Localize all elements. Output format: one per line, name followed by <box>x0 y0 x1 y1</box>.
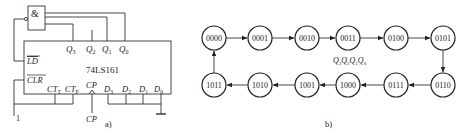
svg-text:0010: 0010 <box>299 34 315 43</box>
wire-clr-to-high <box>14 80 24 116</box>
label-q1: Q1 <box>102 44 112 55</box>
clock-edge-symbol <box>89 90 95 94</box>
label-ld: LD <box>26 56 39 66</box>
label-q2: Q2 <box>86 44 96 55</box>
caption-b: b) <box>325 119 332 129</box>
state-bit-order-label: Q3Q2Q1Q0 <box>333 56 367 66</box>
inverter-bubble <box>24 17 27 20</box>
svg-text:1010: 1010 <box>252 81 268 90</box>
label-ctt: CTT <box>47 84 61 95</box>
label-d2: D2 <box>121 84 131 95</box>
circuit-figure-a: & Q3 Q2 Q1 Q0 LD 74LS161 CLR CTT CTP CP … <box>14 6 171 129</box>
and-gate-symbol: & <box>31 8 39 19</box>
svg-text:0100: 0100 <box>388 34 404 43</box>
svg-text:0101: 0101 <box>435 34 451 43</box>
label-clr: CLR <box>27 75 43 85</box>
label-ctp: CTP <box>65 84 78 95</box>
svg-text:0110: 0110 <box>435 81 451 90</box>
svg-text:1001: 1001 <box>299 81 315 90</box>
wire-q3-to-gate <box>45 24 73 41</box>
chip-name: 74LS161 <box>86 65 119 75</box>
state-node: 0101 <box>431 26 455 50</box>
state-node: 0110 <box>431 73 455 97</box>
label-cp-input: CP <box>86 114 97 124</box>
label-d3: D3 <box>103 84 113 95</box>
state-diagram-b: 0000 0001 0010 0011 0100 0101 1011 1010 … <box>202 26 455 129</box>
state-node: 0111 <box>384 73 408 97</box>
label-cp-pin: CP <box>86 80 97 90</box>
state-node: 1010 <box>248 73 272 97</box>
caption-a: a) <box>105 119 112 129</box>
label-d0: D0 <box>153 84 163 95</box>
state-node: 1011 <box>202 73 226 97</box>
state-node: 0010 <box>295 26 319 50</box>
wire-d-to-ground <box>108 94 161 104</box>
svg-text:0001: 0001 <box>252 34 268 43</box>
label-d1: D1 <box>138 84 148 95</box>
diagram-canvas: & Q3 Q2 Q1 Q0 LD 74LS161 CLR CTT CTP CP … <box>0 0 470 140</box>
svg-text:0000: 0000 <box>206 34 222 43</box>
svg-text:1000: 1000 <box>340 81 356 90</box>
state-node: 0000 <box>202 26 226 50</box>
label-q3: Q3 <box>66 44 76 55</box>
wire-gate-to-ld <box>14 19 24 61</box>
svg-text:0111: 0111 <box>388 81 403 90</box>
svg-text:0011: 0011 <box>340 34 356 43</box>
state-node: 1000 <box>336 73 360 97</box>
state-node: 1001 <box>295 73 319 97</box>
state-node: 0001 <box>248 26 272 50</box>
state-node: 0011 <box>336 26 360 50</box>
wire-ct-to-high <box>14 94 73 104</box>
state-node: 0100 <box>384 26 408 50</box>
svg-text:1011: 1011 <box>206 81 222 90</box>
logic-high-label: 1 <box>16 114 20 123</box>
wire-q1-to-gate <box>45 17 107 41</box>
label-q0: Q0 <box>119 44 129 55</box>
